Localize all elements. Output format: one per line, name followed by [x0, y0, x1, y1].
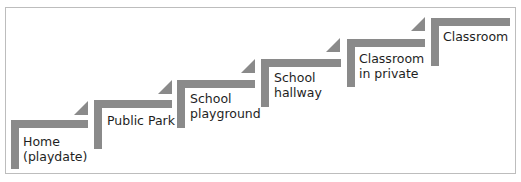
step-tread	[11, 120, 88, 128]
step-label: School playground	[190, 91, 261, 121]
step-label: Classroom in private	[359, 51, 424, 81]
step-riser	[94, 100, 102, 149]
step-label: Public Park	[107, 113, 175, 128]
step-tread	[261, 59, 341, 67]
arrow-tip-icon	[326, 38, 340, 52]
arrow-tip-icon	[241, 59, 255, 73]
arrow-tip-icon	[411, 17, 425, 31]
step-tread	[431, 18, 510, 26]
step-tread	[347, 39, 425, 47]
step-label: Home (playdate)	[23, 134, 87, 164]
step-label: Classroom	[443, 29, 508, 44]
step-tread	[94, 100, 172, 108]
step-riser	[431, 18, 439, 66]
step-riser	[11, 120, 19, 169]
step-label: School hallway	[274, 70, 322, 100]
step-tread	[177, 80, 255, 88]
step-riser	[261, 59, 269, 107]
arrow-tip-icon	[74, 101, 88, 115]
step-riser	[347, 39, 355, 87]
step-riser	[177, 80, 185, 128]
arrow-tip-icon	[158, 80, 172, 94]
